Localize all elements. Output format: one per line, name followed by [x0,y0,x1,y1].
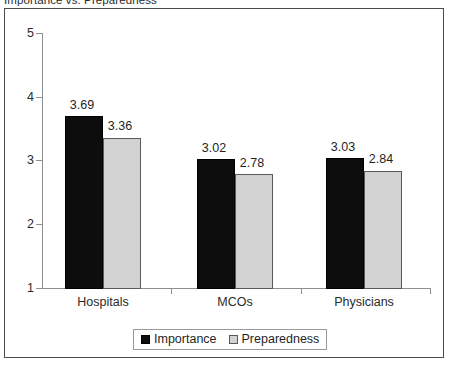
x-category-label-hospitals: Hospitals [65,295,141,309]
x-tick-mark-3 [430,288,431,294]
bar-importance-physicians [326,158,364,289]
legend-item-preparedness: Preparedness [229,332,320,346]
x-tick-mark-1 [171,288,172,294]
y-tick-label-5: 5 [8,27,34,39]
bar-preparedness-physicians [364,171,402,289]
y-tick-mark-4 [36,97,42,98]
chart-legend: Importance Preparedness [133,329,327,350]
y-tick-label-1: 1 [8,282,34,294]
legend-swatch-importance-icon [141,335,150,344]
bar-value-preparedness-physicians: 2.84 [343,153,419,166]
y-tick-mark-1 [36,288,42,289]
y-tick-mark-5 [36,33,42,34]
bar-importance-hospitals [65,116,103,289]
chart-container: Importance vs. Preparedness 5 4 3 2 1 3.… [0,0,452,365]
x-category-label-mcos: MCOs [197,295,273,309]
legend-item-importance: Importance [141,332,217,346]
x-tick-mark-2 [301,288,302,294]
legend-label-preparedness: Preparedness [242,332,320,346]
bar-value-preparedness-hospitals: 3.36 [82,120,158,133]
y-tick-mark-3 [36,160,42,161]
chart-title: Importance vs. Preparedness [4,0,157,6]
bar-importance-mcos [197,159,235,289]
bar-value-importance-mcos: 3.02 [176,142,252,155]
bar-value-preparedness-mcos: 2.78 [214,157,290,170]
y-axis-line [42,33,43,289]
legend-label-importance: Importance [154,332,217,346]
y-tick-label-4: 4 [8,91,34,103]
bar-value-importance-hospitals: 3.69 [44,99,120,112]
legend-swatch-preparedness-icon [229,335,238,344]
bar-preparedness-mcos [235,174,273,289]
y-tick-label-3: 3 [8,154,34,166]
x-category-label-physicians: Physicians [326,295,402,309]
y-tick-mark-2 [36,224,42,225]
y-tick-label-2: 2 [8,218,34,230]
bar-preparedness-hospitals [103,138,141,289]
